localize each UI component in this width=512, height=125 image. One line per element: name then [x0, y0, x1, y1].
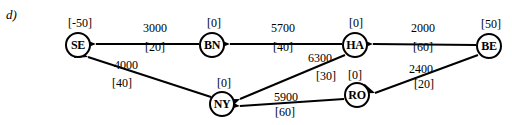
edge-cost-ny-se: 4000 — [114, 59, 138, 71]
edge-capacity-ha-bn: [40] — [273, 41, 293, 53]
node-supply-be: [50] — [481, 18, 501, 30]
node-ny[interactable]: NY — [209, 91, 235, 117]
edge-capacity-ha-ny: [30] — [316, 70, 336, 82]
node-supply-se: [-50] — [68, 17, 92, 29]
edge-cost-be-ha: 2000 — [411, 22, 435, 34]
node-ro[interactable]: RO — [344, 82, 370, 108]
node-ha[interactable]: HA — [342, 32, 368, 58]
edge-capacity-ny-se: [40] — [112, 77, 132, 89]
node-label-ha: HA — [346, 39, 363, 51]
edge-capacity-be-ro: [20] — [414, 78, 434, 90]
edge-line-ny-se — [88, 57, 211, 97]
edge-capacity-be-ha: [60] — [413, 41, 433, 53]
node-label-ro: RO — [348, 89, 365, 101]
network-flow-diagram: d) SE[-50]BN[0]HA[0]BE[50]NY[0]RO[0] 300… — [0, 0, 512, 125]
node-be[interactable]: BE — [476, 33, 502, 59]
edge-cost-ha-bn: 5700 — [271, 22, 295, 34]
edge-cost-bn-se: 3000 — [143, 22, 167, 34]
node-label-se: SE — [71, 39, 85, 51]
edge-cost-ha-ny: 6300 — [308, 52, 332, 64]
node-label-ny: NY — [214, 98, 231, 110]
node-label-be: BE — [481, 40, 496, 52]
node-bn[interactable]: BN — [199, 32, 225, 58]
edge-cost-ro-ny: 5900 — [274, 91, 298, 103]
edge-capacity-ro-ny: [60] — [275, 106, 295, 118]
node-se[interactable]: SE — [65, 32, 91, 58]
node-supply-ro: [0] — [348, 69, 362, 81]
edge-cost-be-ro: 2400 — [409, 63, 433, 75]
node-supply-ha: [0] — [349, 17, 363, 29]
edge-capacity-bn-se: [20] — [145, 41, 165, 53]
node-supply-bn: [0] — [207, 17, 221, 29]
node-label-bn: BN — [204, 39, 220, 51]
node-supply-ny: [0] — [217, 77, 231, 89]
